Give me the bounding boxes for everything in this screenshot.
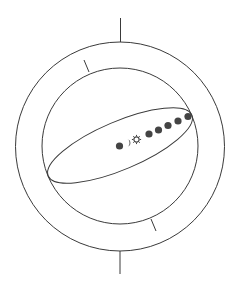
- planet-4-dot-icon: [174, 117, 181, 124]
- earth-dot-icon: [116, 142, 123, 149]
- cosmos-diagram-canvas: [0, 0, 239, 291]
- inner-axis-tick-bottom: [151, 219, 156, 231]
- inner-axis-tick-top: [84, 60, 89, 72]
- planet-3-dot-icon: [164, 122, 171, 129]
- planet-1-dot-icon: [145, 130, 152, 137]
- celestial-bodies: [116, 113, 192, 150]
- cosmos-diagram: [0, 0, 239, 291]
- planet-5-dot-icon: [184, 113, 191, 120]
- planet-2-dot-icon: [155, 126, 162, 133]
- moon-crescent-icon: [127, 140, 130, 147]
- sun-sun-icon: [132, 135, 141, 144]
